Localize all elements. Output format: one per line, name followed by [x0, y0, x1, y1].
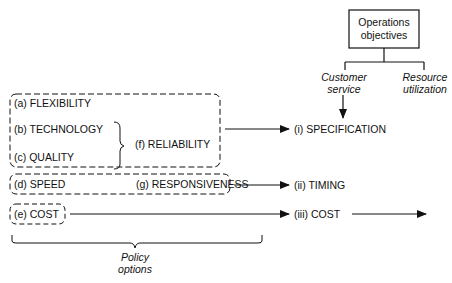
resource-utilization-label: Resource utilization [395, 71, 452, 95]
policy-brace [12, 235, 262, 248]
policy-options-label: Policy options [105, 251, 165, 275]
policy-technology: (b) TECHNOLOGY [14, 124, 103, 135]
objectives-label: Operations objectives [349, 16, 419, 41]
policy-speed: (d) SPEED [14, 179, 65, 190]
policy-quality: (c) QUALITY [14, 152, 74, 163]
diagram-lines [0, 0, 452, 283]
policy-reliability: (f) RELIABILITY [135, 139, 210, 150]
customer-service-label: Customer service [314, 71, 374, 95]
brace-bc [114, 122, 124, 169]
outcome-cost: (iii) COST [294, 209, 340, 220]
outcome-specification: (i) SPECIFICATION [294, 124, 386, 135]
outcome-timing: (ii) TIMING [294, 180, 345, 191]
policy-cost: (e) COST [14, 209, 59, 220]
policy-responsiveness: (g) RESPONSIVENESS [136, 179, 249, 190]
policy-flexibility: (a) FLEXIBILITY [14, 98, 91, 109]
